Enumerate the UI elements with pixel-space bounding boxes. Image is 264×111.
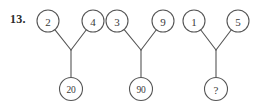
node-value-result-tree-2: 90 — [136, 84, 145, 95]
node-value-left-tree-3: 1 — [191, 16, 197, 27]
node-value-left-tree-1: 2 — [45, 16, 51, 27]
node-value-result-tree-3: ? — [214, 84, 219, 95]
edge-group — [55, 29, 232, 77]
tree-diagram-svg — [0, 0, 264, 111]
edge-right-tree-1 — [71, 30, 86, 50]
edge-right-tree-3 — [216, 30, 231, 50]
edge-left-tree-2 — [124, 29, 141, 50]
node-value-right-tree-2: 9 — [160, 16, 166, 27]
edge-left-tree-1 — [55, 30, 71, 50]
edge-left-tree-3 — [201, 30, 216, 50]
node-value-right-tree-1: 4 — [90, 16, 96, 27]
node-value-left-tree-2: 3 — [114, 16, 120, 27]
node-value-right-tree-3: 5 — [235, 16, 241, 27]
edge-right-tree-2 — [141, 30, 156, 50]
puzzle-figure: 13. 2420399015? — [0, 0, 264, 111]
node-value-result-tree-1: 20 — [66, 84, 75, 95]
